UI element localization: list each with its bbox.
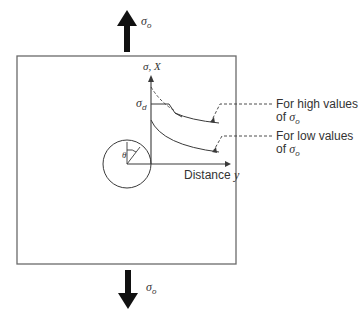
x-axis-label: Distance y	[184, 169, 239, 182]
angle-theta-icon	[127, 142, 140, 164]
theta-label: θ	[122, 149, 126, 162]
annotation-high: For high values of σo	[276, 98, 358, 128]
sigma-d-label: σd	[136, 97, 146, 114]
axes	[127, 75, 231, 167]
y-axis-label: σ, X	[143, 60, 161, 73]
annotation-low: For low values of σo	[276, 130, 353, 160]
tension-arrow-down-icon	[118, 270, 138, 309]
plate-frame	[17, 56, 236, 264]
low-sigma-curve	[151, 120, 219, 152]
leader-lines	[212, 104, 272, 150]
applied-stress-top-label: σo	[141, 15, 151, 32]
applied-stress-bottom-label: σo	[146, 281, 156, 298]
tension-arrow-up-icon	[117, 10, 137, 52]
sigma-d-level-line	[151, 104, 182, 117]
